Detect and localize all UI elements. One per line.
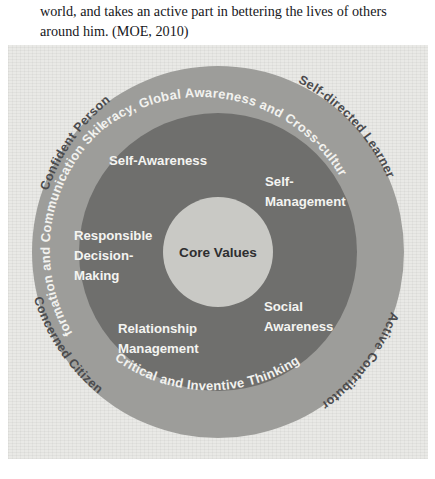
competency-label-self-management-line-2: Management xyxy=(265,194,346,209)
competency-label-social-awareness-line-2: Awareness xyxy=(264,319,333,334)
competency-label-relationship-management-line-2: Management xyxy=(118,341,199,356)
competency-label-responsible-decision-making-line-3: Making xyxy=(74,268,119,283)
competency-label-self-management-line-1: Self- xyxy=(265,174,294,189)
body-text-line-1: world, and takes an active part in bette… xyxy=(40,2,413,22)
competency-label-responsible-decision-making-line-2: Decision- xyxy=(74,248,133,263)
core-values-label: Core Values xyxy=(179,245,257,260)
body-text-line-2: around him. (MOE, 2010) xyxy=(40,22,413,42)
competency-label-self-awareness: Self-Awareness xyxy=(109,153,207,168)
competency-label-social-awareness-line-1: Social xyxy=(264,299,303,314)
competency-label-responsible-decision-making-line-1: Responsible xyxy=(74,228,152,243)
framework-diagram: Civic Literacy, Global Awareness and Cro… xyxy=(8,45,428,459)
body-text-block: world, and takes an active part in bette… xyxy=(0,0,435,41)
framework-diagram-svg: Civic Literacy, Global Awareness and Cro… xyxy=(8,45,428,459)
competency-label-relationship-management-line-1: Relationship xyxy=(118,321,197,336)
